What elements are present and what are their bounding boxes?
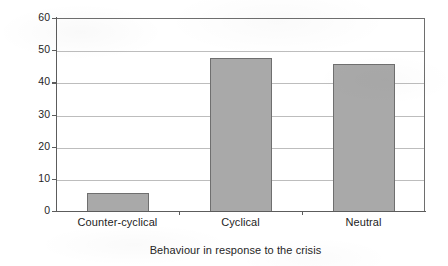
y-tick-label: 50 (18, 43, 50, 55)
y-tick-label: 60 (18, 11, 50, 23)
bar (333, 64, 395, 212)
bar (87, 193, 149, 212)
y-axis-line (56, 17, 57, 212)
bar (210, 58, 272, 212)
gridline (56, 51, 424, 52)
y-tick-label: 20 (18, 140, 50, 152)
plot-area (56, 18, 425, 211)
y-tick-label: 40 (18, 75, 50, 87)
y-tick-label: 10 (18, 172, 50, 184)
y-tick-label: 0 (18, 204, 50, 216)
x-axis-line (56, 211, 426, 212)
x-tick-mark (302, 211, 303, 215)
x-tick-label: Neutral (274, 216, 448, 228)
bar-chart-figure: Percentage 0102030405060 Counter-cyclica… (0, 0, 448, 266)
x-axis-title: Behaviour in response to the crisis (45, 244, 426, 256)
y-tick-label: 30 (18, 108, 50, 120)
x-tick-mark (179, 211, 180, 215)
